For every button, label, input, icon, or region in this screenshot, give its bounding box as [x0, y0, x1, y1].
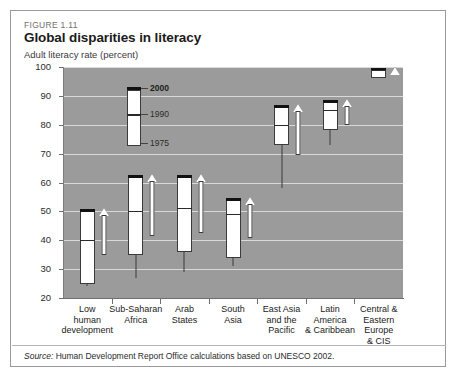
candle-tick-1990	[323, 110, 338, 111]
trend-up-arrow-icon	[341, 99, 353, 126]
source-prefix: Source:	[24, 351, 53, 361]
figure-card: FIGURE 1.11 Global disparities in litera…	[10, 10, 446, 367]
y-axis-tick-mark	[59, 298, 63, 299]
candle-tick-1990	[128, 211, 143, 212]
source-divider	[12, 345, 446, 346]
arrow-shaft	[296, 111, 301, 154]
candle-box	[177, 177, 192, 253]
trend-up-arrow-icon	[195, 174, 207, 233]
y-axis-tick-label: 70	[21, 148, 51, 159]
y-axis-tick-label: 20	[21, 292, 51, 303]
candle-box	[274, 107, 289, 144]
y-axis-tick-mark	[59, 269, 63, 270]
y-axis-tick-label: 60	[21, 177, 51, 188]
x-axis-label-line: Central &	[349, 304, 408, 315]
y-axis-tick-mark	[59, 240, 63, 241]
y-axis-tick-label: 50	[21, 205, 51, 216]
candle-box	[80, 211, 95, 284]
trend-up-arrow-icon	[146, 174, 158, 237]
arrow-shaft	[344, 106, 349, 126]
candle-cap-2000	[226, 198, 241, 201]
legend-box	[127, 90, 141, 146]
y-axis-tick-mark	[59, 125, 63, 126]
legend-leader-1990	[141, 114, 148, 115]
candle-box	[323, 102, 338, 131]
y-axis-tick-label: 80	[21, 119, 51, 130]
y-axis-tick-mark	[59, 211, 63, 212]
legend-label-1975: 1975	[150, 138, 169, 148]
y-axis-tick-label: 90	[21, 90, 51, 101]
y-axis-tick-label: 30	[21, 263, 51, 274]
candle-cap-2000	[323, 100, 338, 103]
arrow-shaft	[150, 181, 155, 237]
arrow-shaft	[101, 215, 106, 255]
y-axis-tick-mark	[59, 96, 63, 97]
arrow-shaft	[247, 204, 252, 238]
trend-up-arrow-icon	[98, 208, 110, 255]
gridline	[63, 269, 403, 270]
candle-tick-1990	[371, 70, 386, 71]
arrow-head	[390, 67, 400, 75]
candle-box	[226, 200, 241, 258]
figure-title: Global disparities in literacy	[24, 30, 201, 45]
legend-leader-1975	[141, 143, 148, 144]
legend-label-2000: 2000	[150, 83, 169, 93]
legend-cap-2000	[127, 87, 141, 90]
trend-up-arrow-icon	[389, 67, 401, 78]
candle-tick-1990	[80, 240, 95, 241]
candle-tick-1990	[226, 214, 241, 215]
candle-cap-2000	[128, 175, 143, 178]
candle-cap-2000	[80, 209, 95, 212]
gridline	[63, 154, 403, 155]
y-axis-tick-mark	[59, 183, 63, 184]
candle-tick-1990	[274, 125, 289, 126]
gridline	[63, 183, 403, 184]
y-axis-tick-label: 100	[21, 61, 51, 72]
trend-up-arrow-icon	[292, 104, 304, 154]
candle-box	[128, 177, 143, 256]
legend-tick-1990	[127, 114, 141, 116]
y-axis-line	[63, 67, 64, 299]
candle-box	[371, 70, 386, 78]
x-axis-label-line: development	[58, 325, 117, 336]
source-note: Source: Human Development Report Office …	[24, 351, 334, 361]
y-axis-tick-mark	[59, 67, 63, 68]
figure-number: FIGURE 1.11	[24, 20, 78, 30]
x-axis-line	[63, 298, 404, 299]
trend-up-arrow-icon	[244, 197, 256, 238]
legend: 2000 1990 1975	[127, 85, 247, 147]
legend-label-1990: 1990	[150, 109, 169, 119]
y-axis-tick-mark	[59, 154, 63, 155]
candle-cap-2000	[177, 175, 192, 178]
y-axis-title: Adult literacy rate (percent)	[24, 49, 138, 60]
candle-cap-2000	[274, 105, 289, 108]
x-axis-label-line: Eastern	[349, 315, 408, 326]
y-axis-tick-label: 40	[21, 234, 51, 245]
arrow-shaft	[198, 181, 203, 233]
gridline	[63, 67, 403, 68]
candle-tick-1990	[177, 208, 192, 209]
x-axis-category-label: Central &EasternEurope& CIS	[349, 304, 408, 346]
x-axis-label-line: Europe	[349, 325, 408, 336]
legend-leader-2000	[141, 88, 148, 89]
source-text: Human Development Report Office calculat…	[53, 351, 334, 361]
